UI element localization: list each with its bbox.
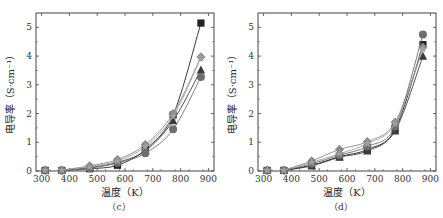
series-diamond: [41, 52, 206, 174]
y-tick-label: 3: [26, 80, 32, 90]
x-tick-label: 900: [200, 174, 217, 184]
x-tick-label: 600: [338, 174, 355, 184]
y-tick-label: 1: [248, 137, 254, 147]
data-point-square: [197, 19, 204, 26]
x-axis-label: 温度（K）: [323, 186, 370, 198]
y-axis-label: 电导率（S·cm⁻¹）: [226, 50, 238, 134]
y-tick-label: 0: [26, 166, 32, 176]
y-tick-label: 1: [26, 137, 32, 147]
y-tick-label: 0: [248, 166, 254, 176]
plot-frame: [36, 13, 214, 171]
x-axis-label: 温度（K）: [101, 186, 148, 198]
y-tick-label: 2: [248, 109, 254, 119]
chart-panel-d: 300400500600700800900012345电导率（S·cm⁻¹）温度…: [222, 0, 443, 218]
y-tick-label: 5: [248, 22, 254, 32]
series-triangle: [263, 52, 427, 174]
data-point-circle: [141, 149, 149, 157]
x-tick-label: 300: [33, 174, 50, 184]
x-tick-label: 800: [172, 174, 189, 184]
series-circle: [263, 31, 427, 175]
x-tick-label: 700: [144, 174, 161, 184]
y-tick-label: 2: [26, 109, 32, 119]
y-tick-label: 4: [26, 51, 32, 61]
data-point-circle: [169, 125, 177, 133]
x-tick-label: 800: [394, 174, 411, 184]
x-tick-label: 900: [422, 174, 439, 184]
series-square: [42, 19, 205, 174]
x-tick-label: 700: [366, 174, 383, 184]
panel-caption: （c）: [107, 202, 130, 212]
y-tick-label: 3: [248, 80, 254, 90]
x-tick-label: 400: [61, 174, 78, 184]
x-tick-label: 400: [283, 174, 300, 184]
y-tick-label: 4: [248, 51, 254, 61]
y-axis-label: 电导率（S·cm⁻¹）: [4, 50, 16, 134]
y-tick-label: 5: [26, 22, 32, 32]
panel-caption: （d）: [329, 202, 353, 212]
x-tick-label: 500: [89, 174, 106, 184]
x-tick-label: 500: [311, 174, 328, 184]
data-point-triangle: [197, 65, 205, 73]
x-tick-label: 300: [255, 174, 272, 184]
data-point-circle: [419, 31, 427, 39]
series-star: [41, 53, 206, 174]
chart-panel-c: 300400500600700800900012345电导率（S·cm⁻¹）温度…: [0, 0, 221, 218]
chart-d-svg: 300400500600700800900012345电导率（S·cm⁻¹）温度…: [222, 0, 443, 218]
data-point-circle: [197, 73, 205, 81]
chart-c-svg: 300400500600700800900012345电导率（S·cm⁻¹）温度…: [0, 0, 221, 218]
x-tick-label: 600: [116, 174, 133, 184]
